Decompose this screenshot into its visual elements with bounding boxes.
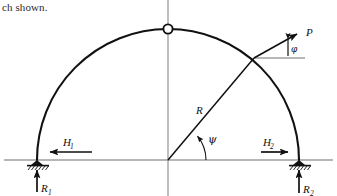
R2-force-label: R (302, 183, 310, 195)
H1-force-label-subscript: 1 (70, 142, 74, 151)
psi-angle-label: ψ (208, 133, 217, 146)
R1-force-label-subscript: 1 (48, 188, 52, 196)
phi-angle-label: φ (291, 44, 298, 54)
left-pin-support (27, 160, 49, 170)
crown-hinge-icon (163, 24, 172, 33)
left-support-triangle (31, 160, 43, 165)
arch-diagram-figure: ch shown. R ψ P (0, 0, 337, 196)
left-support-hatching (28, 166, 49, 170)
arch-diagram-canvas: R ψ P φ H 1 (0, 0, 337, 196)
right-support-triangle (293, 160, 305, 165)
psi-angle-arc (198, 136, 207, 160)
load-force-P-label: P (305, 26, 313, 38)
R2-force-label-subscript: 2 (310, 189, 314, 196)
H2-force-label-subscript: 2 (270, 142, 274, 151)
right-pin-support (289, 160, 311, 170)
R1-force-label: R (40, 182, 48, 194)
right-support-hatching (290, 166, 311, 170)
radius-label: R (195, 104, 203, 116)
